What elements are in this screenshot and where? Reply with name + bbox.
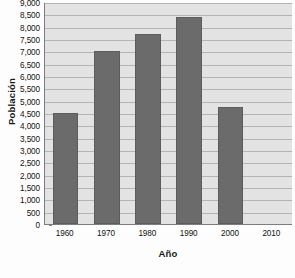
y-tick-label: 8,000	[20, 23, 40, 32]
y-tick-label: 5,500	[20, 85, 40, 94]
y-tick-label: 5,000	[20, 97, 40, 106]
x-tick-label: 2010	[251, 229, 292, 238]
plot-area	[44, 3, 292, 225]
y-tick-label: 3,500	[20, 134, 40, 143]
y-tick-label: 6,500	[20, 60, 40, 69]
y-tick-label: 9,000	[20, 0, 40, 8]
y-tick-label: 7,000	[20, 48, 40, 57]
population-bar-chart: Población 9,0008,5008,0007,5007,0006,500…	[0, 0, 295, 278]
y-tick-label: 1,500	[20, 184, 40, 193]
y-tick-label: 0	[36, 221, 40, 230]
y-tick-label: 4,500	[20, 110, 40, 119]
y-tick-label: 2,000	[20, 171, 40, 180]
bar	[218, 107, 244, 224]
y-tick-label: 500	[27, 208, 40, 217]
bar	[53, 113, 79, 224]
x-axis-title: Año	[44, 248, 292, 259]
bars-group	[45, 3, 292, 224]
y-tick-label: 4,000	[20, 122, 40, 131]
y-tick-label: 2,500	[20, 159, 40, 168]
bar	[176, 17, 202, 224]
bar-slot	[169, 3, 210, 224]
x-tick-label: 1960	[44, 229, 85, 238]
y-tick-label: 1,000	[20, 196, 40, 205]
y-tick-label: 8,500	[20, 11, 40, 20]
y-tick-label: 7,500	[20, 36, 40, 45]
x-tick-label: 2000	[209, 229, 250, 238]
y-tick-mark	[49, 225, 52, 226]
bar-slot	[86, 3, 127, 224]
y-tick-label: 3,000	[20, 147, 40, 156]
bar-slot	[45, 3, 86, 224]
bar-slot	[210, 3, 251, 224]
y-axis-tick-labels: 9,0008,5008,0007,5007,0006,5006,0005,500…	[8, 3, 40, 225]
x-axis-tick-labels: 196019701980199020002010	[44, 229, 292, 238]
x-tick-label: 1990	[168, 229, 209, 238]
bar	[135, 34, 161, 224]
y-tick-label: 6,000	[20, 73, 40, 82]
x-tick-label: 1980	[127, 229, 168, 238]
bar-slot	[127, 3, 168, 224]
x-tick-label: 1970	[85, 229, 126, 238]
bar-slot	[251, 3, 292, 224]
bar	[94, 51, 120, 224]
